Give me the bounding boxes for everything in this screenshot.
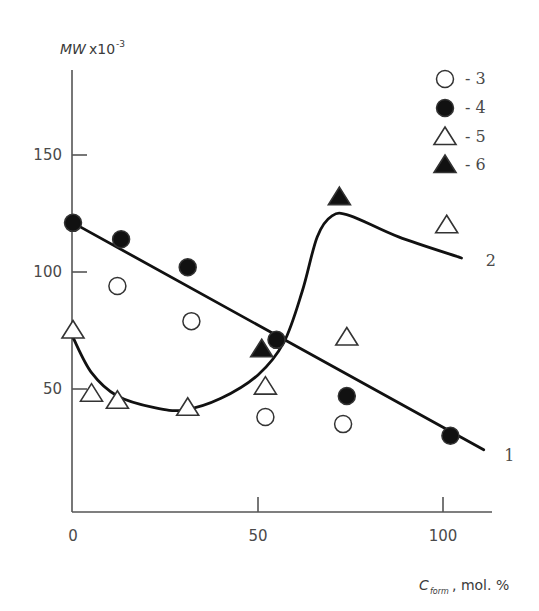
- data-point-series-5: [81, 384, 103, 402]
- data-point-series-5: [336, 328, 358, 346]
- legend-marker-filled-triangle: [434, 155, 456, 173]
- data-points: [62, 187, 459, 444]
- chart: MW x10 -3 C form , mol. % 50100150 05010…: [0, 0, 539, 611]
- data-point-series-6: [328, 187, 350, 205]
- legend: - 3- 4- 5- 6: [434, 69, 486, 174]
- data-point-series-4: [442, 427, 459, 444]
- data-point-series-3: [257, 409, 274, 426]
- data-point-series-4: [65, 214, 82, 231]
- data-point-series-5: [436, 215, 458, 233]
- x-axis-title-sub: form: [430, 587, 449, 596]
- x-axis-title: C form , mol. %: [419, 577, 509, 596]
- data-point-series-4: [179, 259, 196, 276]
- data-point-series-3: [335, 416, 352, 433]
- data-point-series-3: [109, 278, 126, 295]
- data-point-series-3: [183, 313, 200, 330]
- legend-marker-filled-circle: [437, 100, 454, 117]
- legend-label: - 4: [465, 98, 486, 117]
- legend-label: - 5: [465, 127, 486, 146]
- legend-marker-open-triangle: [434, 127, 456, 145]
- x-axis-title-main: C: [419, 577, 429, 593]
- y-tick-label: 150: [33, 146, 62, 164]
- y-axis-title-main: MW: [60, 41, 87, 57]
- x-tick-label: 50: [248, 527, 267, 545]
- curve-label-1: 1: [504, 446, 514, 465]
- y-tick-label: 100: [33, 263, 62, 281]
- x-tick-label: 0: [68, 527, 78, 545]
- y-tick-label: 50: [43, 380, 62, 398]
- data-point-series-5: [62, 321, 84, 339]
- data-point-series-4: [338, 388, 355, 405]
- data-point-series-5: [254, 377, 276, 395]
- x-tick-label: 100: [429, 527, 458, 545]
- legend-marker-open-circle: [437, 71, 454, 88]
- y-ticks: 50100150: [33, 146, 87, 398]
- x-ticks: 050100: [68, 497, 457, 545]
- curve-label-2: 2: [486, 251, 496, 270]
- y-axis-title: MW x10 -3: [60, 39, 125, 57]
- y-axis-title-multiplier: x10: [89, 41, 115, 57]
- x-axis-title-rest: , mol. %: [452, 577, 509, 593]
- y-axis-title-exponent: -3: [116, 39, 125, 49]
- legend-label: - 6: [465, 155, 486, 174]
- data-point-series-4: [268, 331, 285, 348]
- legend-label: - 3: [465, 69, 486, 88]
- curve-labels: 12: [486, 251, 515, 464]
- data-point-series-4: [113, 231, 130, 248]
